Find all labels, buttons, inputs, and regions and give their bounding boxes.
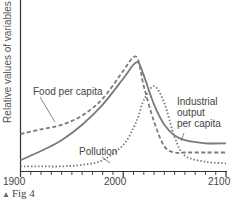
food-per-capita-label: Food per capita [33, 86, 103, 97]
triangle-marker-icon: ▲ [2, 190, 10, 199]
industrial-label-line1: Industrial [177, 96, 218, 107]
x-tick-2100: 2100 [208, 176, 230, 187]
pollution-label: Pollution [79, 146, 117, 157]
y-axis-label: Relative values of variables [2, 0, 14, 132]
figure-caption-text: Fig 4 [12, 187, 35, 199]
pollution-leader-line [102, 157, 110, 163]
industrial-label-line2: output [177, 107, 205, 118]
industrial-label-line3: per capita [177, 118, 221, 129]
figure-caption: ▲Fig 4 [2, 187, 35, 199]
x-tick-2000: 2000 [104, 176, 126, 187]
x-tick-1900: 1900 [3, 176, 25, 187]
food-leader-line [40, 97, 55, 122]
